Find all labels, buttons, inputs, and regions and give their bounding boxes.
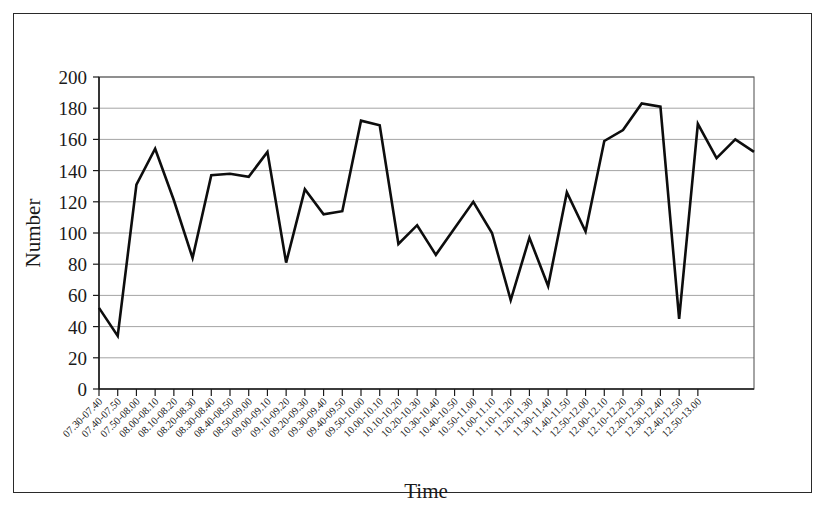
y-axis-ticks [93,77,99,389]
y-tick-label: 100 [59,223,88,244]
y-tick-label: 140 [59,161,88,182]
x-axis-tick-labels: 07.30-07.4007.40-07.5007.50-08.0008.00-0… [61,396,704,440]
y-tick-label: 60 [68,285,87,306]
y-axis-tick-labels: 020406080100120140160180200 [59,67,88,400]
data-series-number [99,104,754,336]
x-axis-title: Time [404,479,448,503]
x-axis-ticks [99,389,698,396]
gridlines [99,77,754,358]
line-chart: 020406080100120140160180200 07.30-07.400… [0,0,825,519]
y-tick-label: 160 [59,129,88,150]
y-axis-title: Number [21,199,45,268]
y-tick-label: 20 [68,348,87,369]
y-tick-label: 120 [59,192,88,213]
y-tick-label: 180 [59,98,88,119]
chart-figure: 020406080100120140160180200 07.30-07.400… [0,0,825,519]
y-tick-label: 200 [59,67,88,88]
y-tick-label: 80 [68,254,87,275]
y-tick-label: 40 [68,317,87,338]
y-tick-label: 0 [78,379,88,400]
